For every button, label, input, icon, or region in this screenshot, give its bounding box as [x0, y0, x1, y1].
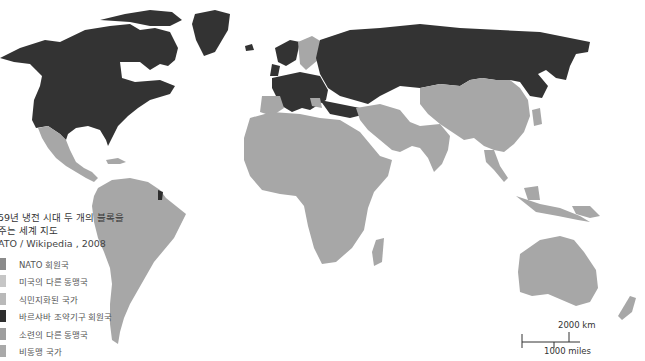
scale-miles-label: 1000 miles — [544, 346, 591, 356]
legend-item-warsaw-pact: 바르샤바 조약기구 회원국 — [0, 308, 200, 326]
legend-label: 미국의 다른 동맹국 — [19, 275, 88, 287]
legend-item-nato: NATO 회원국 — [0, 255, 200, 273]
legend-swatch — [0, 275, 6, 287]
legend-label: 비동맹 국가 — [19, 345, 62, 357]
legend-label: 소련의 다른 동맹국 — [19, 328, 88, 340]
legend-label: 바르샤바 조약기구 회원국 — [19, 310, 112, 322]
legend-item-non-aligned: 비동맹 국가 — [0, 343, 200, 361]
australia — [518, 236, 636, 320]
legend-item-colonized: 식민지화된 국가 — [0, 290, 200, 308]
map-legend: 59년 냉전 시대 두 개의 블록을 주는 세계 지도 ATO / Wikipe… — [0, 211, 200, 360]
north-america-nato — [0, 10, 254, 146]
legend-swatch — [0, 258, 6, 270]
legend-items: NATO 회원국 미국의 다른 동맹국 식민지화된 국가 바르샤바 조약기구 회… — [0, 255, 200, 360]
legend-item-soviet-allies: 소련의 다른 동맹국 — [0, 325, 200, 343]
legend-label: 식민지화된 국가 — [19, 293, 78, 305]
legend-swatch — [0, 328, 6, 340]
scale-bar: 2000 km 1000 miles — [520, 320, 610, 360]
legend-item-us-allies: 미국의 다른 동맹국 — [0, 273, 200, 291]
legend-swatch — [0, 310, 6, 322]
legend-title-line2: 주는 세계 지도 — [0, 224, 200, 237]
madagascar — [372, 238, 384, 266]
africa — [244, 112, 392, 266]
legend-title-line1: 59년 냉전 시대 두 개의 블록을 — [0, 211, 200, 224]
legend-swatch — [0, 345, 6, 357]
legend-swatch — [0, 293, 6, 305]
legend-source: ATO / Wikipedia , 2008 — [0, 237, 200, 251]
legend-label: NATO 회원국 — [19, 258, 69, 270]
asia — [356, 78, 600, 222]
